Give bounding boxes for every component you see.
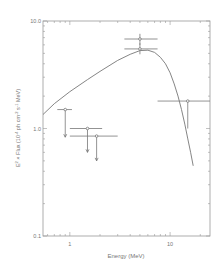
svg-text:1.0: 1.0 [33, 126, 41, 132]
data-point [124, 43, 157, 54]
svg-text:10: 10 [167, 241, 173, 247]
plot-frame [43, 21, 210, 236]
data-point [158, 100, 210, 129]
data-point [57, 108, 72, 137]
y-axis-label: E2 × Flux (10-4 ph cm-2 s-1 MeV) [14, 89, 22, 167]
y-tick-labels: 0.11.010.0 [30, 18, 41, 239]
x-tick-labels: 110 [68, 241, 173, 247]
data-point [70, 135, 118, 161]
svg-text:1: 1 [68, 241, 71, 247]
spectrum-chart: 0.11.010.0 110 Energy (MeV) E2 × Flux (1… [0, 0, 219, 271]
svg-text:10.0: 10.0 [30, 18, 41, 24]
svg-text:0.1: 0.1 [33, 233, 41, 239]
data-point [124, 34, 157, 45]
x-axis-label: Energy (MeV) [107, 253, 144, 259]
axis-ticks [43, 21, 210, 236]
data-point [70, 127, 102, 152]
